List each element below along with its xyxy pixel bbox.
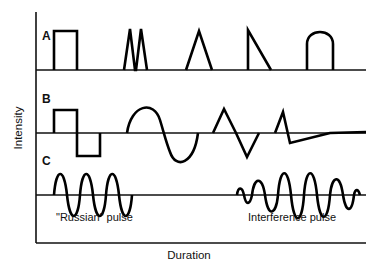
row-label-c: C bbox=[42, 154, 51, 168]
waveform-c-russian-pulse bbox=[54, 174, 132, 216]
x-axis-label: Duration bbox=[167, 249, 210, 261]
waveform-a-rectangular-pulse bbox=[54, 31, 77, 70]
row-label-b: B bbox=[42, 92, 51, 106]
waveform-a-sawtooth-pulse bbox=[248, 30, 271, 70]
pulse-waveform-figure: A B C "Russian" pulse Interference puls bbox=[0, 0, 378, 265]
waveform-plot: A B C "Russian" pulse Interference puls bbox=[0, 0, 378, 265]
caption-interference-pulse: Interference pulse bbox=[248, 211, 336, 223]
waveform-a-dome-pulse bbox=[307, 32, 333, 70]
row-label-a: A bbox=[42, 29, 51, 43]
waveform-b-spike-with-tail bbox=[275, 112, 366, 143]
waveform-a-triangular-pulse bbox=[186, 31, 212, 70]
caption-russian-pulse: "Russian" pulse bbox=[56, 211, 133, 223]
waveform-b-sine-wave bbox=[127, 108, 198, 163]
y-axis-label: Intensity bbox=[12, 106, 24, 149]
waveform-a-double-spike bbox=[124, 29, 147, 70]
